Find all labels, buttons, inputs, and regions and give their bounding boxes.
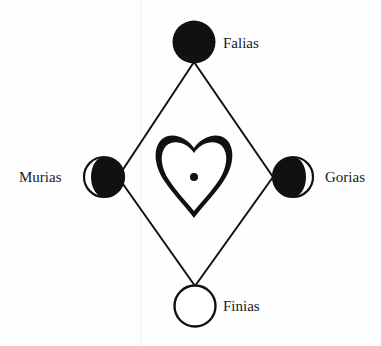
- label-finias: Finias: [223, 299, 260, 314]
- gorias-crescent-icon: [273, 157, 313, 197]
- label-murias: Murias: [19, 170, 62, 185]
- murias-crescent-icon: [84, 157, 124, 197]
- label-gorias: Gorias: [325, 170, 365, 185]
- label-falias: Falias: [223, 36, 259, 51]
- falias-full-circle-icon: [173, 21, 216, 64]
- finias-empty-circle-icon: [175, 286, 216, 327]
- diagram-canvas: Falias Murias Gorias Finias: [0, 0, 381, 346]
- heart-center-dot-icon: [190, 173, 198, 181]
